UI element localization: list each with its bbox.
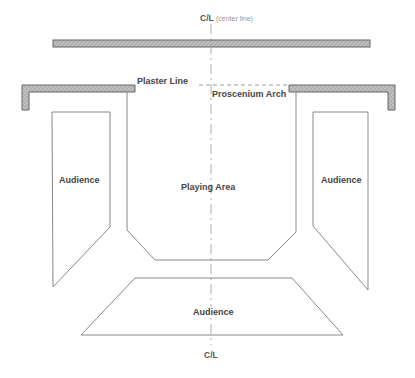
playing-area-outline (127, 92, 296, 260)
proscenium-wall-right (289, 85, 395, 110)
centerline-bottom-label: C/L (204, 350, 218, 360)
proscenium-arch-label: Proscenium Arch (212, 89, 286, 99)
plaster-line-label: Plaster Line (137, 76, 188, 86)
proscenium-wall-left (22, 85, 135, 110)
upstage-wall (53, 40, 370, 47)
playing-area-label: Playing Area (181, 182, 235, 192)
audience-left-label: Audience (59, 175, 100, 185)
audience-right-outline (313, 112, 368, 290)
audience-right-label: Audience (321, 175, 362, 185)
centerline-top-label: C/L (center line) (200, 13, 253, 23)
audience-left-outline (52, 112, 110, 287)
audience-bottom-label: Audience (192, 307, 235, 317)
centerline-abbr: C/L (200, 13, 214, 23)
centerline-note: (center line) (216, 15, 253, 22)
